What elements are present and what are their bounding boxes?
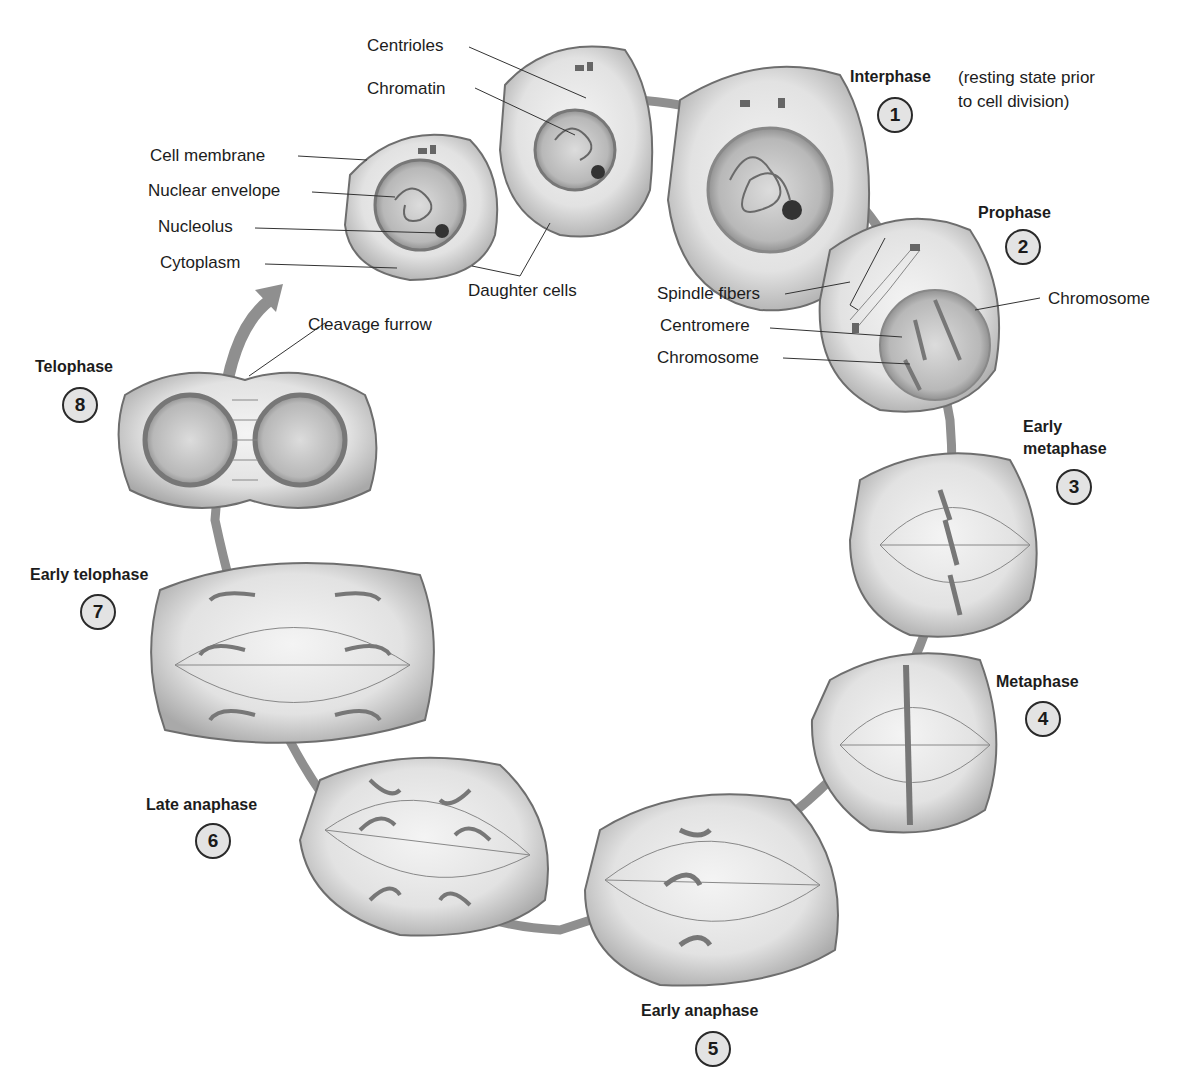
late-anaphase-cell bbox=[300, 758, 548, 936]
phase-badge-1: 1 bbox=[877, 97, 913, 133]
interphase-note-line1: (resting state prior bbox=[958, 67, 1095, 88]
phase-title-early-telophase: Early telophase bbox=[30, 564, 148, 585]
phase-title-telophase: Telophase bbox=[35, 356, 113, 377]
label-cell-membrane: Cell membrane bbox=[150, 146, 265, 166]
interphase-note-line2: to cell division) bbox=[958, 91, 1070, 112]
phase-title-early-anaphase: Early anaphase bbox=[641, 1000, 758, 1021]
label-centrioles: Centrioles bbox=[367, 36, 444, 56]
phase-title-interphase: Interphase bbox=[850, 66, 931, 87]
early-anaphase-cell bbox=[585, 794, 838, 985]
phase-badge-6: 6 bbox=[195, 823, 231, 859]
label-cleavage-furrow: Cleavage furrow bbox=[308, 315, 432, 335]
label-chromosome-right: Chromosome bbox=[1048, 289, 1150, 309]
prophase-cell bbox=[820, 219, 999, 412]
label-daughter-cells: Daughter cells bbox=[468, 281, 577, 301]
phase-title-early-metaphase-line1: Early bbox=[1023, 416, 1062, 437]
phase-title-prophase: Prophase bbox=[978, 202, 1051, 223]
early-telophase-cell bbox=[151, 563, 434, 743]
phase-title-late-anaphase: Late anaphase bbox=[146, 794, 257, 815]
daughter-cell-b bbox=[500, 47, 652, 237]
label-spindle-fibers: Spindle fibers bbox=[657, 284, 760, 304]
label-nuclear-envelope: Nuclear envelope bbox=[148, 181, 280, 201]
phase-badge-5: 5 bbox=[695, 1031, 731, 1067]
label-centromere: Centromere bbox=[660, 316, 750, 336]
phase-badge-2: 2 bbox=[1005, 229, 1041, 265]
label-chromatin: Chromatin bbox=[367, 79, 445, 99]
phase-badge-8: 8 bbox=[62, 387, 98, 423]
label-cytoplasm: Cytoplasm bbox=[160, 253, 240, 273]
phase-title-early-metaphase-line2: metaphase bbox=[1023, 438, 1107, 459]
phase-badge-7: 7 bbox=[80, 594, 116, 630]
early-metaphase-cell bbox=[850, 453, 1037, 636]
phase-title-metaphase: Metaphase bbox=[996, 671, 1079, 692]
label-nucleolus: Nucleolus bbox=[158, 217, 233, 237]
daughter-cell-a bbox=[345, 135, 497, 280]
telophase-cell bbox=[119, 373, 377, 508]
mitosis-diagram: Centrioles Chromatin Cell membrane Nucle… bbox=[0, 0, 1195, 1087]
label-chromosome-left: Chromosome bbox=[657, 348, 759, 368]
phase-badge-3: 3 bbox=[1056, 469, 1092, 505]
phase-badge-4: 4 bbox=[1025, 701, 1061, 737]
metaphase-cell bbox=[812, 653, 996, 832]
